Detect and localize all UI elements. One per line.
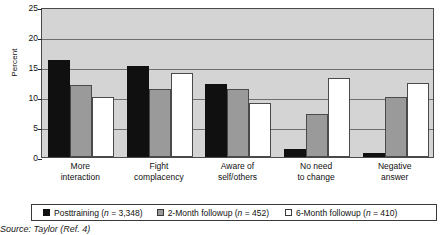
legend-label: 2-Month followup (n = 452) bbox=[168, 208, 269, 218]
bar bbox=[328, 78, 350, 157]
bar bbox=[48, 60, 70, 157]
x-tick-label-line: complacency bbox=[120, 172, 199, 183]
y-tick-label-5: 5 bbox=[14, 124, 38, 132]
bar-group bbox=[42, 9, 121, 157]
bar bbox=[284, 149, 306, 157]
x-tick-label: No needto change bbox=[277, 161, 356, 182]
x-tick-label-line: self/others bbox=[198, 172, 277, 183]
bar bbox=[249, 103, 271, 157]
legend-item: 6-Month followup (n = 410) bbox=[285, 208, 397, 218]
x-tick-label-line: More bbox=[41, 161, 120, 172]
y-tick-label-15: 15 bbox=[14, 64, 38, 72]
plot-area bbox=[41, 8, 434, 158]
x-axis-category-labels: MoreinteractionFightcomplacencyAware ofs… bbox=[41, 161, 434, 193]
x-tick-label-line: Negative bbox=[355, 161, 434, 172]
bar bbox=[407, 83, 429, 157]
legend-swatch-0 bbox=[43, 209, 50, 216]
x-tick-label: Negativeanswer bbox=[355, 161, 434, 182]
bar-group bbox=[278, 9, 357, 157]
bar bbox=[306, 114, 328, 157]
bar bbox=[385, 97, 407, 157]
x-tick-label: Moreinteraction bbox=[41, 161, 120, 182]
x-tick-label: Fightcomplacency bbox=[120, 161, 199, 182]
bar bbox=[205, 84, 227, 157]
legend-label: 6-Month followup (n = 410) bbox=[296, 208, 397, 218]
x-tick-label-line: interaction bbox=[41, 172, 120, 183]
x-tick-label-line: answer bbox=[355, 172, 434, 183]
x-tick-label: Aware ofself/others bbox=[198, 161, 277, 182]
y-tick-label-25: 25 bbox=[14, 4, 38, 12]
bar bbox=[149, 89, 171, 157]
legend-item: 2-Month followup (n = 452) bbox=[157, 208, 269, 218]
legend-item: Posttraining (n = 3,348) bbox=[43, 208, 143, 218]
y-tickmark-0 bbox=[38, 159, 42, 160]
bar bbox=[92, 97, 114, 157]
source-caption: Source: Taylor (Ref. 4) bbox=[0, 224, 90, 234]
y-tick-label-0: 0 bbox=[14, 154, 38, 162]
bar-chart-figure: Percent 2520151050 MoreinteractionFightc… bbox=[0, 0, 445, 235]
y-tick-label-10: 10 bbox=[14, 94, 38, 102]
x-tick-label-line: to change bbox=[277, 172, 356, 183]
bars-layer bbox=[42, 9, 433, 157]
bar-group bbox=[356, 9, 435, 157]
chart-legend: Posttraining (n = 3,348)2-Month followup… bbox=[31, 204, 437, 221]
legend-swatch-2 bbox=[285, 209, 292, 216]
bar bbox=[127, 66, 149, 157]
x-tick-label-line: Fight bbox=[120, 161, 199, 172]
y-axis-tick-labels: 2520151050 bbox=[14, 8, 38, 158]
legend-label: Posttraining (n = 3,348) bbox=[54, 208, 143, 218]
x-tick-label-line: No need bbox=[277, 161, 356, 172]
y-tick-label-20: 20 bbox=[14, 34, 38, 42]
legend-swatch-1 bbox=[157, 209, 164, 216]
bar bbox=[227, 89, 249, 157]
bar bbox=[363, 153, 385, 157]
bar-group bbox=[121, 9, 200, 157]
bar bbox=[171, 73, 193, 157]
bar-group bbox=[199, 9, 278, 157]
bar bbox=[70, 85, 92, 157]
x-tick-label-line: Aware of bbox=[198, 161, 277, 172]
